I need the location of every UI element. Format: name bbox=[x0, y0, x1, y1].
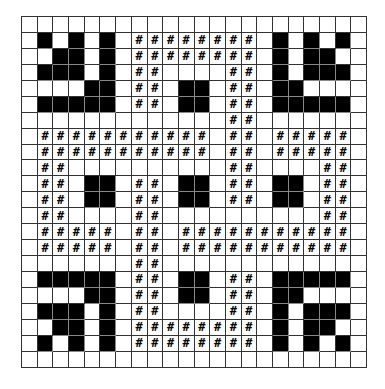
empty-cell[interactable] bbox=[257, 160, 273, 176]
empty-cell[interactable] bbox=[163, 160, 179, 176]
filled-cell[interactable] bbox=[85, 81, 101, 97]
marked-cell[interactable]: # bbox=[132, 176, 148, 192]
filled-cell[interactable] bbox=[69, 320, 85, 336]
marked-cell[interactable]: # bbox=[179, 129, 195, 145]
marked-cell[interactable]: # bbox=[242, 176, 258, 192]
filled-cell[interactable] bbox=[38, 336, 54, 352]
empty-cell[interactable] bbox=[69, 17, 85, 33]
marked-cell[interactable]: # bbox=[53, 240, 69, 256]
empty-cell[interactable] bbox=[116, 160, 132, 176]
empty-cell[interactable] bbox=[304, 256, 320, 272]
marked-cell[interactable]: # bbox=[226, 160, 242, 176]
marked-cell[interactable]: # bbox=[210, 49, 226, 65]
marked-cell[interactable]: # bbox=[132, 208, 148, 224]
empty-cell[interactable] bbox=[257, 129, 273, 145]
filled-cell[interactable] bbox=[69, 304, 85, 320]
marked-cell[interactable]: # bbox=[226, 320, 242, 336]
marked-cell[interactable]: # bbox=[320, 192, 336, 208]
filled-cell[interactable] bbox=[273, 81, 289, 97]
marked-cell[interactable]: # bbox=[226, 65, 242, 81]
empty-cell[interactable] bbox=[320, 336, 336, 352]
filled-cell[interactable] bbox=[273, 65, 289, 81]
empty-cell[interactable] bbox=[22, 97, 38, 113]
empty-cell[interactable] bbox=[22, 49, 38, 65]
marked-cell[interactable]: # bbox=[226, 113, 242, 129]
marked-cell[interactable]: # bbox=[320, 176, 336, 192]
filled-cell[interactable] bbox=[195, 97, 211, 113]
empty-cell[interactable] bbox=[351, 129, 367, 145]
filled-cell[interactable] bbox=[195, 272, 211, 288]
empty-cell[interactable] bbox=[22, 320, 38, 336]
marked-cell[interactable]: # bbox=[116, 129, 132, 145]
empty-cell[interactable] bbox=[210, 65, 226, 81]
empty-cell[interactable] bbox=[53, 113, 69, 129]
empty-cell[interactable] bbox=[351, 33, 367, 49]
marked-cell[interactable]: # bbox=[242, 336, 258, 352]
empty-cell[interactable] bbox=[132, 113, 148, 129]
empty-cell[interactable] bbox=[22, 224, 38, 240]
empty-cell[interactable] bbox=[85, 320, 101, 336]
empty-cell[interactable] bbox=[210, 145, 226, 161]
empty-cell[interactable] bbox=[100, 113, 116, 129]
empty-cell[interactable] bbox=[69, 176, 85, 192]
filled-cell[interactable] bbox=[53, 272, 69, 288]
empty-cell[interactable] bbox=[22, 113, 38, 129]
marked-cell[interactable]: # bbox=[226, 81, 242, 97]
empty-cell[interactable] bbox=[210, 17, 226, 33]
filled-cell[interactable] bbox=[320, 49, 336, 65]
marked-cell[interactable]: # bbox=[226, 97, 242, 113]
empty-cell[interactable] bbox=[163, 352, 179, 368]
marked-cell[interactable]: # bbox=[132, 81, 148, 97]
marked-cell[interactable]: # bbox=[210, 240, 226, 256]
empty-cell[interactable] bbox=[351, 288, 367, 304]
empty-cell[interactable] bbox=[289, 208, 305, 224]
empty-cell[interactable] bbox=[116, 192, 132, 208]
marked-cell[interactable]: # bbox=[148, 272, 164, 288]
filled-cell[interactable] bbox=[304, 97, 320, 113]
filled-cell[interactable] bbox=[38, 304, 54, 320]
marked-cell[interactable]: # bbox=[132, 192, 148, 208]
marked-cell[interactable]: # bbox=[242, 129, 258, 145]
marked-cell[interactable]: # bbox=[320, 129, 336, 145]
empty-cell[interactable] bbox=[116, 272, 132, 288]
marked-cell[interactable]: # bbox=[53, 208, 69, 224]
empty-cell[interactable] bbox=[304, 208, 320, 224]
marked-cell[interactable]: # bbox=[273, 129, 289, 145]
empty-cell[interactable] bbox=[351, 272, 367, 288]
empty-cell[interactable] bbox=[273, 160, 289, 176]
marked-cell[interactable]: # bbox=[132, 65, 148, 81]
marked-cell[interactable]: # bbox=[148, 288, 164, 304]
empty-cell[interactable] bbox=[257, 97, 273, 113]
marked-cell[interactable]: # bbox=[242, 320, 258, 336]
empty-cell[interactable] bbox=[210, 272, 226, 288]
marked-cell[interactable]: # bbox=[210, 33, 226, 49]
filled-cell[interactable] bbox=[195, 288, 211, 304]
empty-cell[interactable] bbox=[226, 256, 242, 272]
empty-cell[interactable] bbox=[273, 113, 289, 129]
empty-cell[interactable] bbox=[132, 17, 148, 33]
empty-cell[interactable] bbox=[304, 160, 320, 176]
empty-cell[interactable] bbox=[257, 208, 273, 224]
marked-cell[interactable]: # bbox=[148, 97, 164, 113]
marked-cell[interactable]: # bbox=[336, 208, 352, 224]
empty-cell[interactable] bbox=[116, 224, 132, 240]
empty-cell[interactable] bbox=[351, 81, 367, 97]
empty-cell[interactable] bbox=[116, 336, 132, 352]
marked-cell[interactable]: # bbox=[38, 208, 54, 224]
marked-cell[interactable]: # bbox=[38, 145, 54, 161]
empty-cell[interactable] bbox=[148, 160, 164, 176]
empty-cell[interactable] bbox=[163, 17, 179, 33]
filled-cell[interactable] bbox=[100, 304, 116, 320]
marked-cell[interactable]: # bbox=[242, 97, 258, 113]
empty-cell[interactable] bbox=[69, 256, 85, 272]
empty-cell[interactable] bbox=[210, 81, 226, 97]
marked-cell[interactable]: # bbox=[38, 176, 54, 192]
empty-cell[interactable] bbox=[116, 49, 132, 65]
empty-cell[interactable] bbox=[163, 65, 179, 81]
empty-cell[interactable] bbox=[85, 49, 101, 65]
empty-cell[interactable] bbox=[163, 208, 179, 224]
filled-cell[interactable] bbox=[273, 192, 289, 208]
empty-cell[interactable] bbox=[257, 304, 273, 320]
filled-cell[interactable] bbox=[304, 320, 320, 336]
filled-cell[interactable] bbox=[69, 33, 85, 49]
